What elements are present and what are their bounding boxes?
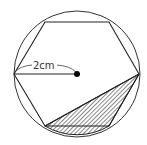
diagram-canvas: 2cm [0,0,147,145]
radius-label: 2cm [33,60,55,71]
radius-arc-right [57,65,76,72]
center-dot [74,71,80,77]
